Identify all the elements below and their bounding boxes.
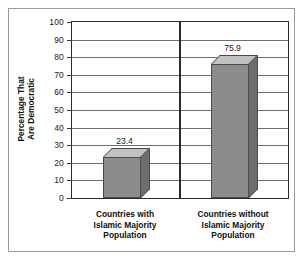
category-divider [179,22,181,198]
y-axis-tick-label: 10 [54,175,64,185]
y-axis-tick [67,128,72,129]
bar: 75.9 [211,64,249,198]
y-axis-tick [67,145,72,146]
y-axis-tick-label: 90 [54,35,64,45]
y-axis-tick-label: 40 [54,123,64,133]
y-axis-tick [67,163,72,164]
y-axis-tick [67,180,72,181]
category-label: Countries without Islamic Majority Popul… [173,209,293,241]
bar-value-label: 75.9 [224,43,241,53]
y-axis-tick [67,92,72,93]
y-axis-tick [67,75,72,76]
y-axis-tick-label: 20 [54,158,64,168]
y-axis-title: Percentage That Are Democratic [15,29,37,189]
y-axis-tick-label: 70 [54,70,64,80]
bar: 23.4 [103,157,141,198]
y-axis-tick [67,198,72,199]
y-axis-tick [67,57,72,58]
y-axis-tick [67,110,72,111]
y-axis-tick-label: 60 [54,87,64,97]
y-axis-tick-label: 50 [54,105,64,115]
y-axis-tick [67,40,72,41]
bar-front-face [103,157,141,198]
y-axis-title-line-1: Percentage That [16,76,26,141]
y-axis-tick-label: 100 [49,17,64,27]
y-axis-title-line-2: Are Democratic [26,78,36,140]
y-axis-tick-label: 0 [59,193,64,203]
y-axis-tick-label: 80 [54,52,64,62]
category-label: Countries with Islamic Majority Populati… [65,209,185,241]
y-axis-tick [67,22,72,23]
bar-front-face [211,64,249,198]
plot-area: 1009080706050403020100 23.475.9 [71,21,289,199]
y-axis-tick-label: 30 [54,140,64,150]
chart-figure: Percentage That Are Democratic 100908070… [8,8,295,252]
bar-value-label: 23.4 [116,136,133,146]
bar-side-face [249,55,258,198]
